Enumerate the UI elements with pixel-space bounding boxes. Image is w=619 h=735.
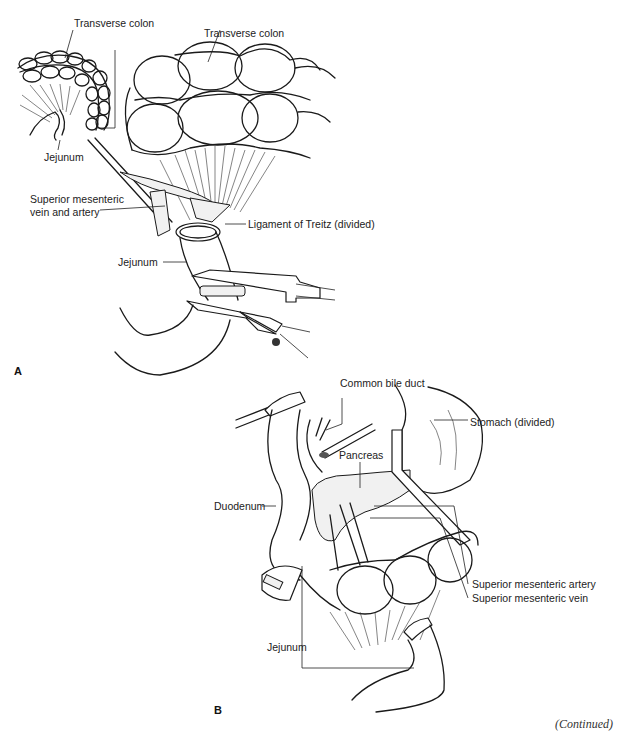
continued-note: (Continued) — [555, 717, 613, 732]
label-duodenum: Duodenum — [214, 500, 265, 512]
label-jejunum-a: Jejunum — [118, 256, 158, 268]
inset-colon-drawing — [18, 50, 115, 140]
label-ligament-of-treitz: Ligament of Treitz (divided) — [248, 218, 375, 230]
continued-text: (Continued) — [555, 717, 613, 731]
label-jejunum-inset: Jejunum — [44, 151, 84, 163]
surgical-illustration: Transverse colon Transverse colon Jejunu… — [0, 0, 619, 735]
label-pancreas: Pancreas — [339, 449, 383, 461]
label-jejunum-b: Jejunum — [267, 641, 307, 653]
label-common-bile-duct: Common bile duct — [340, 377, 425, 389]
illustration-drawing — [0, 0, 619, 735]
label-transverse-colon-inset: Transverse colon — [74, 17, 154, 29]
label-sm-vein-artery-line2: vein and artery — [30, 206, 99, 218]
label-transverse-colon-main: Transverse colon — [204, 27, 284, 39]
panel-label-a: A — [14, 365, 22, 377]
label-superior-mesenteric-artery: Superior mesenteric artery — [472, 578, 596, 590]
label-sm-vein-artery-line1: Superior mesenteric — [30, 193, 124, 205]
label-superior-mesenteric-vein: Superior mesenteric vein — [472, 592, 588, 604]
label-stomach-divided: Stomach (divided) — [470, 416, 555, 428]
panel-label-b: B — [214, 704, 222, 716]
main-colon-drawing — [125, 42, 335, 158]
